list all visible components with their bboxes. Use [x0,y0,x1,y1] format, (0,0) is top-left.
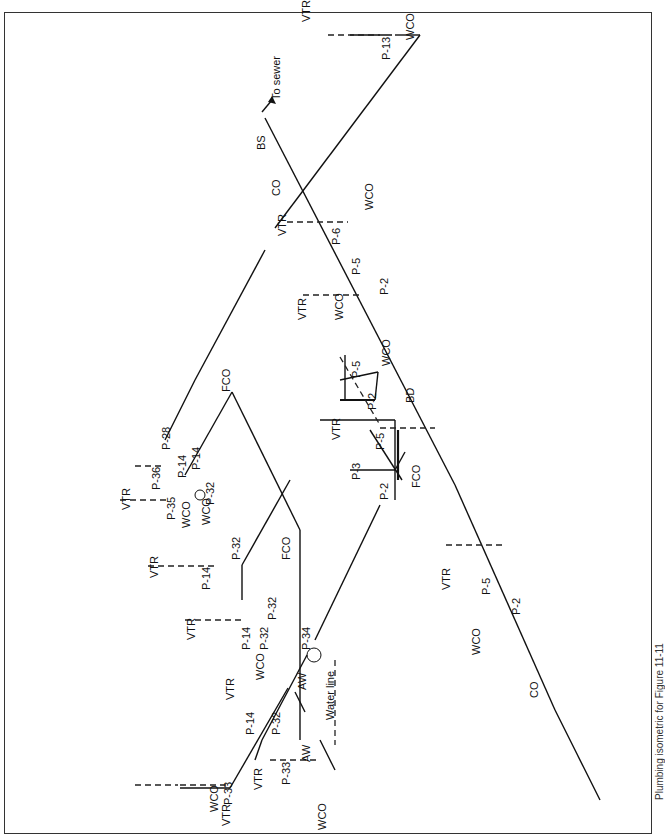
label-wco-top: WCO [404,13,416,40]
label-p28: P-28 [160,427,172,450]
label-p35: P-35 [165,497,177,520]
label-vtr-2: VTR [296,298,308,320]
label-co-top: CO [270,180,282,197]
label-p6: P-6 [330,228,342,245]
label-p2-2: P-2 [366,393,378,410]
label-p14-b: P-14 [190,447,202,470]
label-aw-lower: AW [300,745,312,762]
label-bs: BS [255,135,267,150]
label-p2-3: P-2 [378,483,390,500]
label-vtr-3: VTR [120,488,132,510]
label-vtr-9: VTR [252,768,264,790]
label-p32-1: P-32 [204,482,216,505]
label-p36: P-36 [150,467,162,490]
label-wco-8: WCO [316,803,328,830]
label-wco-3: WCO [180,501,192,528]
label-p5-3: P-5 [374,433,386,450]
label-p13: P-13 [380,37,392,60]
label-wco-2: WCO [333,293,345,320]
label-co-bottom: CO [528,682,540,699]
label-vtr-10: VTR [220,804,232,826]
figure-caption: Plumbing isometric for Figure 11-11 [654,643,665,800]
label-vtr-6: VTR [224,678,236,700]
label-wco-7: WCO [470,628,482,655]
vent-lines [120,35,506,785]
label-p14-c: P-14 [200,567,212,590]
label-p5-2: P-5 [350,361,362,378]
label-wco-6: WCO [380,339,392,366]
label-vtr-8: VTR [440,568,452,590]
label-p2-1: P-2 [378,278,390,295]
label-p33-a: P-33 [280,762,292,785]
label-p5-4: P-5 [480,578,492,595]
label-p34: P-34 [300,627,312,650]
label-wco-1: WCO [363,183,375,210]
label-to-sewer: To sewer [270,56,282,100]
label-bd: BD [404,388,416,403]
label-vtr-1: VTR [276,214,288,236]
label-vtr-top: VTR [300,0,312,22]
label-vtr-4: VTR [148,556,160,578]
label-vtr-5: VTR [185,618,197,640]
label-p14-a: P-14 [176,455,188,478]
label-aw-upper: AW [296,673,308,690]
label-p14-e: P-14 [244,712,256,735]
label-water-line: Water line [324,671,336,720]
label-p33-b: P-33 [222,782,234,805]
label-vtr-7: VTR [330,418,342,440]
label-wco-9: WCO [208,785,220,812]
label-wco-5: WCO [254,653,266,680]
label-p32-3: P-32 [258,627,270,650]
label-fco-mid: FCO [280,537,292,560]
label-p3: P-3 [350,463,362,480]
label-p32-5: P-32 [270,712,282,735]
label-p32-4: P-32 [266,597,278,620]
label-p32-2: P-32 [230,537,242,560]
water-meter-icon [307,648,321,662]
label-p14-d: P-14 [240,627,252,650]
label-p5-1: P-5 [350,258,362,275]
label-p2-4: P-2 [510,598,522,615]
label-fco-lower: FCO [410,465,422,488]
label-fco-upper: FCO [220,369,232,392]
